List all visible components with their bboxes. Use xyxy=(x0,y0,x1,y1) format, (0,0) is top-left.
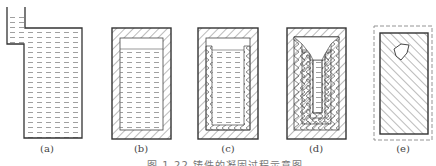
panel-c-label: (c) xyxy=(213,143,243,154)
panel-a-label: (a) xyxy=(32,143,62,154)
panel-b xyxy=(112,28,171,139)
liquid-core xyxy=(313,60,322,113)
panel-a xyxy=(7,7,82,138)
liquid-core xyxy=(120,49,163,130)
panel-c xyxy=(198,28,258,139)
panel-d-label: (d) xyxy=(301,143,331,154)
liquid-core xyxy=(212,50,244,125)
panel-b-label: (b) xyxy=(126,143,156,154)
panel-d xyxy=(287,28,346,139)
riser-liquid xyxy=(7,14,25,44)
panel-e-label: (e) xyxy=(388,143,418,154)
liquid-metal xyxy=(24,28,82,138)
panel-e xyxy=(374,26,432,140)
figure-caption: 图 1-22 铸件的凝固过程示意图 xyxy=(140,157,310,166)
casting-solidification-diagram xyxy=(0,0,436,166)
